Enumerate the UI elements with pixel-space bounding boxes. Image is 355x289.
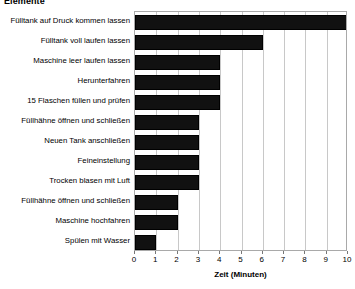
category-label: Feineinstellung <box>0 156 130 165</box>
category-label: 15 Flaschen füllen und prüfen <box>0 96 130 105</box>
category-axis-labels: Fülltank auf Druck kommen lassenFülltank… <box>0 11 130 251</box>
bar <box>135 195 178 210</box>
x-tick-mark <box>283 251 284 254</box>
bar-row <box>135 15 347 30</box>
x-tick-label: 2 <box>169 255 185 265</box>
bar-row <box>135 175 347 190</box>
x-axis: 012345678910 <box>134 251 347 267</box>
x-tick-label: 6 <box>254 255 270 265</box>
x-tick-mark <box>134 251 135 254</box>
category-label: Maschine hochfahren <box>0 216 130 225</box>
bar <box>135 135 199 150</box>
bar <box>135 175 199 190</box>
bar <box>135 115 199 130</box>
category-label: Spülen mit Wasser <box>0 236 130 245</box>
x-tick-mark <box>347 251 348 254</box>
category-label: Füllhähne öffnen und schließen <box>0 116 130 125</box>
bar <box>135 235 156 250</box>
category-label: Fülltank voll laufen lassen <box>0 36 130 45</box>
bar <box>135 35 263 50</box>
x-tick-label: 0 <box>126 255 142 265</box>
x-tick-label: 3 <box>190 255 206 265</box>
category-label: Neuen Tank anschließen <box>0 136 130 145</box>
x-tick-mark <box>241 251 242 254</box>
x-tick-label: 1 <box>147 255 163 265</box>
bar <box>135 95 220 110</box>
x-tick-label: 4 <box>211 255 227 265</box>
bar-row <box>135 235 347 250</box>
bar-row <box>135 215 347 230</box>
bar-row <box>135 115 347 130</box>
x-tick-mark <box>198 251 199 254</box>
x-tick-mark <box>326 251 327 254</box>
x-tick-label: 7 <box>275 255 291 265</box>
x-axis-title: Zeit (Minuten) <box>134 270 347 279</box>
bar-row <box>135 75 347 90</box>
bar <box>135 55 220 70</box>
bar <box>135 215 178 230</box>
bar-row <box>135 95 347 110</box>
bar <box>135 155 199 170</box>
x-tick-mark <box>155 251 156 254</box>
category-label: Trocken blasen mit Luft <box>0 176 130 185</box>
bar-row <box>135 155 347 170</box>
bar <box>135 75 220 90</box>
x-tick-mark <box>219 251 220 254</box>
bar <box>135 15 347 30</box>
x-tick-label: 8 <box>296 255 312 265</box>
x-tick-label: 9 <box>318 255 334 265</box>
x-tick-mark <box>304 251 305 254</box>
bar-row <box>135 195 347 210</box>
chart-title: Elemente <box>4 0 45 6</box>
bar-row <box>135 35 347 50</box>
bar-chart: Elemente Fülltank auf Druck kommen lasse… <box>0 0 355 289</box>
category-label: Maschine leer laufen lassen <box>0 56 130 65</box>
bar-row <box>135 135 347 150</box>
bar-row <box>135 55 347 70</box>
x-tick-mark <box>177 251 178 254</box>
x-tick-mark <box>262 251 263 254</box>
category-label: Füllhähne öffnen und schließen <box>0 196 130 205</box>
plot-area <box>134 11 347 251</box>
category-label: Herunterfahren <box>0 76 130 85</box>
x-tick-label: 10 <box>339 255 355 265</box>
x-tick-label: 5 <box>233 255 249 265</box>
category-label: Fülltank auf Druck kommen lassen <box>0 16 130 25</box>
